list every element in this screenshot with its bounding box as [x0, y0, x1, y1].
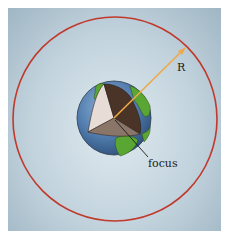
radius-label: R [177, 61, 186, 74]
focus-label: focus [148, 157, 178, 170]
orbit-diagram: R focus [0, 0, 227, 234]
land-mass [115, 136, 138, 156]
